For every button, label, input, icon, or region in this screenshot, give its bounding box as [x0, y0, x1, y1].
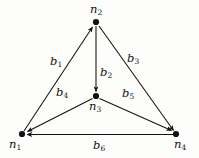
edge-label-b3: b3	[127, 53, 139, 66]
edge-b5	[100, 99, 172, 131]
edge-label-b5: b5	[122, 88, 134, 101]
edge-label-b4: b4	[56, 87, 68, 100]
node-n2	[93, 19, 99, 25]
edge-label-b6: b6	[93, 140, 105, 153]
graph-figure: n1 n2 n3 n4 b1 b2 b3 b4 b5 b6	[0, 0, 199, 158]
edge-label-b2: b2	[100, 67, 112, 80]
edge-label-b1: b1	[50, 56, 62, 69]
node-label-n2: n2	[90, 4, 102, 17]
node-label-n3: n3	[89, 101, 101, 114]
node-label-n1: n1	[9, 139, 21, 152]
node-label-n4: n4	[174, 139, 186, 152]
edge-b4	[28, 99, 93, 132]
node-n1	[19, 131, 25, 137]
